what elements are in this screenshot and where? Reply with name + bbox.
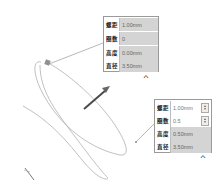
turns-input[interactable]: 0.5 ▲▼ [171,114,211,127]
collapse-top-panel-chevron-icon[interactable]: ^ [143,73,148,82]
diameter-row: 直径 3.50mm [104,59,158,72]
helix-curve-outer [35,62,126,155]
turns-value: 0 [120,32,158,45]
helix-properties-panel-bottom: 螺距 1.00mm ▲▼ 圈数 0.5 ▲▼ 高度 0.50mm 直径 3.50… [154,99,212,153]
pitch-value: 1.00mm [120,18,158,31]
collapse-bottom-panel-chevron-icon[interactable]: ^ [200,153,205,162]
height-value: 0.50mm [171,127,211,140]
diameter-value: 3.50mm [120,59,158,72]
height-row: 高度 0.00mm [104,46,158,59]
pitch-row: 螺距 1.00mm [104,18,158,31]
height-label: 高度 [155,127,171,140]
diameter-value: 3.50mm [171,140,211,153]
origin-axis-icon [25,168,34,180]
height-row: 高度 0.50mm [155,127,211,140]
pitch-label: 螺距 [104,18,120,31]
pitch-input-value: 1.00mm [173,105,193,111]
spin-down-icon[interactable]: ▼ [204,121,207,124]
leader-line-top [49,43,103,64]
spin-down-icon[interactable]: ▼ [204,108,207,111]
pitch-row: 螺距 1.00mm ▲▼ [155,101,211,114]
control-point-bottom [135,141,137,143]
pitch-label: 螺距 [155,101,171,114]
diameter-label: 直径 [155,140,171,153]
turns-label: 圈数 [155,114,171,127]
helix-tail-curve [23,106,108,179]
turns-row: 圈数 0.5 ▲▼ [155,114,211,127]
pitch-input[interactable]: 1.00mm ▲▼ [171,101,211,114]
diameter-row: 直径 3.50mm [155,140,211,153]
height-value: 0.00mm [120,46,158,59]
height-label: 高度 [104,46,120,59]
turns-spinner[interactable]: ▲▼ [201,116,209,126]
leader-line-bottom [136,124,154,142]
helix-curve-inner [40,65,108,178]
turns-input-value: 0.5 [173,118,181,124]
start-point-handle [44,59,50,65]
turns-label: 圈数 [104,32,120,45]
turns-row: 圈数 0 [104,32,158,45]
pitch-spinner[interactable]: ▲▼ [201,103,209,113]
diameter-label: 直径 [104,59,120,72]
helix-properties-panel-top: 螺距 1.00mm 圈数 0 高度 0.00mm 直径 3.50mm [103,16,159,72]
